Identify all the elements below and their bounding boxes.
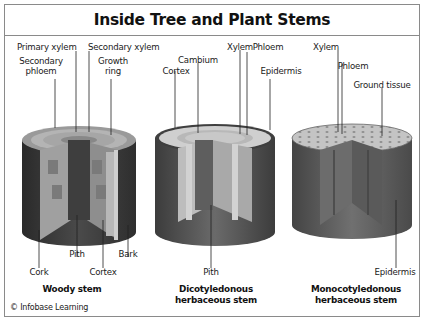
caption-dicot-stem: Dicotyledonousherbaceous stem bbox=[175, 284, 257, 306]
label-cortex-woody: Cortex bbox=[89, 267, 116, 277]
label-primary-xylem: Primary xylem bbox=[17, 42, 77, 52]
dicot-stem-diagram bbox=[155, 124, 275, 246]
label-phloem-dicot: Phloem bbox=[253, 42, 284, 52]
label-bark: Bark bbox=[119, 249, 138, 259]
monocot-stem-diagram bbox=[292, 124, 412, 239]
label-phloem-monocot: Phloem bbox=[338, 61, 369, 71]
label-xylem-monocot: Xylem bbox=[313, 42, 339, 52]
caption-monocot-stem: Monocotyledonousherbaceous stem bbox=[311, 284, 401, 306]
copyright-credit: © Infobase Learning bbox=[10, 303, 88, 312]
label-secondary-xylem: Secondary xylem bbox=[88, 42, 159, 52]
label-secondary-phloem: Secondary phloem bbox=[16, 56, 66, 76]
label-cortex-dicot: Cortex bbox=[162, 66, 189, 76]
label-ground-tissue: Ground tissue bbox=[353, 80, 410, 90]
label-epidermis-dicot: Epidermis bbox=[261, 66, 302, 76]
label-cambium: Cambium bbox=[178, 55, 218, 65]
label-epidermis-monocot: Epidermis bbox=[375, 267, 416, 277]
caption-woody-stem: Woody stem bbox=[42, 284, 101, 295]
label-pith-dicot: Pith bbox=[203, 267, 218, 277]
label-pith-woody: Pith bbox=[69, 249, 84, 259]
woody-stem-diagram bbox=[22, 126, 136, 246]
label-cork: Cork bbox=[30, 267, 49, 277]
label-xylem-dicot: Xylem bbox=[227, 42, 253, 52]
label-growth-ring: Growth ring bbox=[93, 56, 133, 76]
